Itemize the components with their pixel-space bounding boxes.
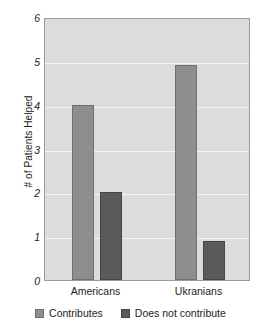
- y-axis-tick-4: 4: [20, 100, 40, 111]
- y-axis-tick-2: 2: [20, 188, 40, 199]
- x-axis-tick-labels: AmericansUkranians: [44, 285, 250, 301]
- y-axis-tick-0: 0: [20, 276, 40, 287]
- legend-item-contributes[interactable]: Contributes: [35, 307, 103, 319]
- plot-area: [44, 18, 250, 281]
- y-axis-tick-6: 6: [20, 13, 40, 24]
- legend-label: Does not contribute: [135, 307, 226, 319]
- bar-americans-contributes: [72, 105, 94, 280]
- legend-swatch-icon: [121, 309, 130, 318]
- x-axis-tick-americans: Americans: [71, 285, 121, 297]
- y-axis-tick-labels: 0123456: [20, 18, 40, 281]
- x-axis-tick-ukranians: Ukranians: [175, 285, 222, 297]
- y-axis-tick-3: 3: [20, 144, 40, 155]
- bar-ukranians-contributes: [175, 65, 197, 280]
- legend-item-does-not-contribute[interactable]: Does not contribute: [121, 307, 226, 319]
- bar-americans-does-not-contribute: [100, 192, 122, 280]
- bar-ukranians-does-not-contribute: [203, 241, 225, 280]
- legend-swatch-icon: [35, 309, 44, 318]
- legend-label: Contributes: [49, 307, 103, 319]
- chart-legend: ContributesDoes not contribute: [0, 307, 261, 319]
- y-axis-tick-1: 1: [20, 232, 40, 243]
- y-axis-tick-5: 5: [20, 57, 40, 68]
- bar-chart: # of Patients Helped 0123456 AmericansUk…: [0, 0, 261, 334]
- gridline: [45, 63, 249, 64]
